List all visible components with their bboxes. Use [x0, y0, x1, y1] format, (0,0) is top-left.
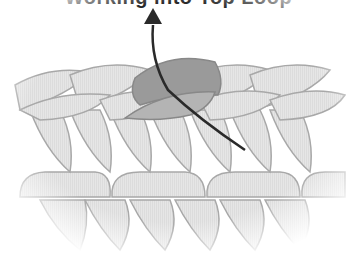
- stitch-diagram: [0, 0, 357, 256]
